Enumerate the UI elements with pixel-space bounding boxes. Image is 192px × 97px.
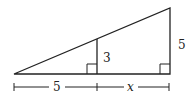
left-base-label: 5 [53, 80, 61, 94]
right-base-label: x [127, 80, 134, 94]
inner-height-label: 3 [103, 51, 111, 65]
base-dimension-line [14, 83, 169, 91]
right-angle-mark-outer [160, 64, 170, 74]
similar-triangles-diagram: 3 5 5 x [0, 0, 192, 97]
right-angle-mark-inner [87, 64, 97, 74]
outer-height-label: 5 [178, 38, 186, 52]
